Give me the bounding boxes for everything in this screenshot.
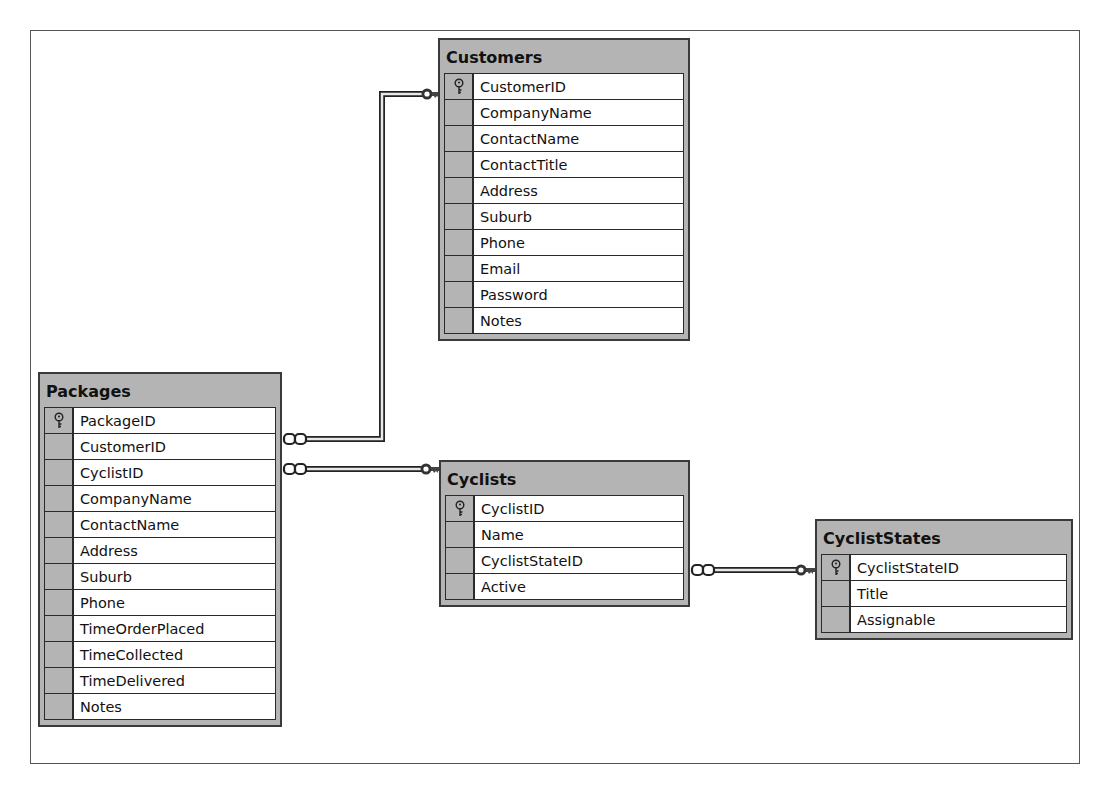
table-title: Packages — [44, 374, 276, 407]
column-row[interactable]: CyclistStateID — [822, 555, 1066, 581]
column-row[interactable]: Phone — [445, 230, 683, 256]
column-row[interactable]: ContactName — [445, 126, 683, 152]
column-row[interactable]: Phone — [45, 590, 275, 616]
column-row[interactable]: Name — [446, 522, 683, 548]
row-selector[interactable] — [45, 538, 74, 563]
column-name: Address — [74, 538, 138, 563]
column-name: Phone — [74, 590, 125, 615]
column-name: ContactName — [474, 126, 579, 151]
column-row[interactable]: ContactName — [45, 512, 275, 538]
column-row[interactable]: Notes — [445, 308, 683, 333]
column-name: Suburb — [474, 204, 532, 229]
table-cyclists[interactable]: Cyclists CyclistID Name CyclistStateID A… — [439, 460, 690, 607]
table-title: Cyclists — [445, 462, 684, 495]
column-name: Phone — [474, 230, 525, 255]
column-name: PackageID — [74, 408, 156, 433]
column-name: TimeCollected — [74, 642, 183, 667]
column-row[interactable]: CustomerID — [445, 74, 683, 100]
column-row[interactable]: CustomerID — [45, 434, 275, 460]
column-name: CompanyName — [74, 486, 192, 511]
column-name: ContactTitle — [474, 152, 568, 177]
row-selector[interactable] — [445, 282, 474, 307]
column-list: CyclistID Name CyclistStateID Active — [445, 495, 684, 600]
column-row[interactable]: CompanyName — [45, 486, 275, 512]
row-selector[interactable] — [45, 668, 74, 693]
column-name: Password — [474, 282, 548, 307]
row-selector[interactable] — [822, 555, 851, 580]
row-selector[interactable] — [445, 178, 474, 203]
row-selector[interactable] — [445, 308, 474, 333]
column-name: CustomerID — [74, 434, 166, 459]
column-name: CompanyName — [474, 100, 592, 125]
column-name: ContactName — [74, 512, 179, 537]
row-selector[interactable] — [45, 408, 74, 433]
column-row[interactable]: Suburb — [45, 564, 275, 590]
column-name: Active — [475, 574, 526, 599]
key-icon — [454, 500, 466, 518]
column-row[interactable]: Title — [822, 581, 1066, 607]
column-name: TimeDelivered — [74, 668, 185, 693]
row-selector[interactable] — [445, 126, 474, 151]
column-row[interactable]: Notes — [45, 694, 275, 719]
row-selector[interactable] — [45, 434, 74, 459]
column-row[interactable]: TimeOrderPlaced — [45, 616, 275, 642]
column-row[interactable]: CyclistID — [446, 496, 683, 522]
row-selector[interactable] — [446, 496, 475, 521]
row-selector[interactable] — [445, 152, 474, 177]
key-icon — [830, 559, 842, 577]
column-row[interactable]: Active — [446, 574, 683, 599]
column-name: CyclistID — [475, 496, 544, 521]
column-list: CyclistStateID Title Assignable — [821, 554, 1067, 633]
column-row[interactable]: TimeCollected — [45, 642, 275, 668]
column-name: TimeOrderPlaced — [74, 616, 204, 641]
row-selector[interactable] — [445, 230, 474, 255]
column-name: Title — [851, 581, 888, 606]
column-name: CyclistStateID — [851, 555, 959, 580]
row-selector[interactable] — [822, 607, 851, 632]
column-row[interactable]: ContactTitle — [445, 152, 683, 178]
column-name: Assignable — [851, 607, 936, 632]
column-name: Email — [474, 256, 520, 281]
column-row[interactable]: Email — [445, 256, 683, 282]
column-name: Notes — [74, 694, 122, 719]
table-customers[interactable]: Customers CustomerID CompanyName Contact… — [438, 38, 690, 341]
key-icon — [53, 412, 65, 430]
column-name: CustomerID — [474, 74, 566, 99]
column-row[interactable]: CyclistStateID — [446, 548, 683, 574]
row-selector[interactable] — [45, 642, 74, 667]
row-selector[interactable] — [445, 204, 474, 229]
column-row[interactable]: CompanyName — [445, 100, 683, 126]
row-selector[interactable] — [445, 256, 474, 281]
row-selector[interactable] — [45, 486, 74, 511]
column-row[interactable]: PackageID — [45, 408, 275, 434]
column-row[interactable]: Suburb — [445, 204, 683, 230]
row-selector[interactable] — [45, 564, 74, 589]
row-selector[interactable] — [445, 100, 474, 125]
key-icon — [453, 78, 465, 96]
row-selector[interactable] — [446, 574, 475, 599]
column-row[interactable]: Assignable — [822, 607, 1066, 632]
column-name: CyclistStateID — [475, 548, 583, 573]
row-selector[interactable] — [822, 581, 851, 606]
table-title: CyclistStates — [821, 521, 1067, 554]
column-row[interactable]: Address — [45, 538, 275, 564]
table-packages[interactable]: Packages PackageID CustomerID CyclistID … — [38, 372, 282, 727]
column-row[interactable]: Password — [445, 282, 683, 308]
column-name: Notes — [474, 308, 522, 333]
column-name: Name — [475, 522, 524, 547]
column-row[interactable]: CyclistID — [45, 460, 275, 486]
column-name: CyclistID — [74, 460, 143, 485]
row-selector[interactable] — [445, 74, 474, 99]
column-row[interactable]: TimeDelivered — [45, 668, 275, 694]
column-name: Suburb — [74, 564, 132, 589]
row-selector[interactable] — [446, 522, 475, 547]
row-selector[interactable] — [45, 590, 74, 615]
table-cyclist-states[interactable]: CyclistStates CyclistStateID Title Assig… — [815, 519, 1073, 640]
column-list: PackageID CustomerID CyclistID CompanyNa… — [44, 407, 276, 720]
column-row[interactable]: Address — [445, 178, 683, 204]
row-selector[interactable] — [45, 694, 74, 719]
row-selector[interactable] — [45, 616, 74, 641]
row-selector[interactable] — [45, 460, 74, 485]
row-selector[interactable] — [446, 548, 475, 573]
row-selector[interactable] — [45, 512, 74, 537]
